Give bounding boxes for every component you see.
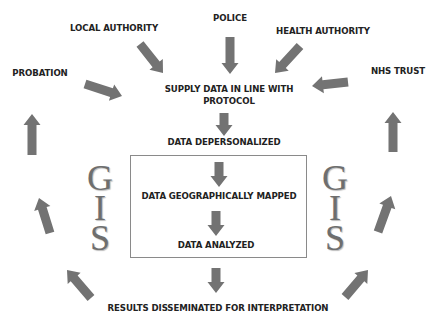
arrow-probation-icon [84, 80, 122, 101]
label-health-authority: HEALTH AUTHORITY [276, 25, 370, 37]
label-local-authority: LOCAL AUTHORITY [70, 22, 158, 34]
arrow-right-upper-icon [385, 112, 402, 152]
gis-data-flow-diagram: POLICE LOCAL AUTHORITY HEALTH AUTHORITY … [0, 0, 447, 324]
arrow-local-authority-icon [137, 41, 164, 73]
arrow-police-down-icon [222, 37, 239, 74]
arrow-to-depersonalized-icon [216, 113, 233, 136]
gis-text-right: G I S [317, 163, 353, 253]
arrow-to-results-icon [208, 268, 225, 293]
arrow-right-lower-icon [342, 270, 368, 300]
label-probation: PROBATION [12, 67, 67, 79]
label-police: POLICE [213, 12, 247, 24]
label-supply-data-line2: PROTOCOL [203, 95, 255, 107]
label-supply-data-line1: SUPPLY DATA IN LINE WITH [165, 83, 294, 95]
gis-letter-s: S [82, 223, 118, 253]
gis-text-left: G I S [82, 163, 118, 253]
label-data-analyzed: DATA ANALYZED [178, 239, 255, 251]
label-data-geographically-mapped: DATA GEOGRAPHICALLY MAPPED [141, 190, 296, 202]
label-nhs-trust: NHS TRUST [371, 65, 425, 77]
arrow-right-middle-icon [374, 196, 396, 234]
label-results-disseminated: RESULTS DISSEMINATED FOR INTERPRETATION [108, 302, 329, 314]
arrow-nhs-trust-icon [312, 76, 349, 93]
arrow-health-authority-icon [275, 43, 303, 73]
arrow-left-upper-icon [24, 114, 41, 155]
arrow-left-middle-icon [34, 198, 54, 234]
label-data-depersonalized: DATA DEPERSONALIZED [167, 136, 280, 148]
gis-letter-s: S [317, 223, 353, 253]
arrow-left-lower-icon [67, 270, 94, 301]
